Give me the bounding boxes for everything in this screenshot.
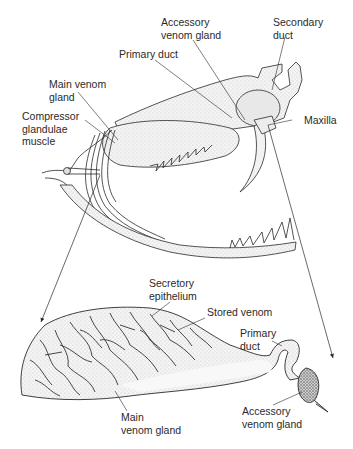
label-primary-duct-top: Primary duct — [119, 48, 178, 61]
label-main-venom-gland-top: Main venom gland — [49, 78, 106, 103]
illustration — [0, 0, 353, 449]
label-secretory-epithelium: Secretory epithelium — [149, 277, 197, 302]
label-maxilla: Maxilla — [304, 114, 337, 127]
label-main-venom-gland-bottom: Main venom gland — [121, 411, 181, 436]
gland-drawing — [21, 307, 328, 412]
label-secondary-duct: Secondary duct — [273, 16, 323, 41]
label-accessory-venom-gland-top: Accessory venom gland — [161, 16, 221, 41]
venom-apparatus-figure: Accessory venom gland Secondary duct Pri… — [0, 0, 353, 449]
label-stored-venom: Stored venom — [207, 306, 272, 319]
label-compressor-glandulae-muscle: Compressor glandulae muscle — [22, 110, 79, 148]
label-primary-duct-bottom: Primary duct — [240, 327, 276, 352]
label-accessory-venom-gland-bottom: Accessory venom gland — [242, 405, 302, 430]
